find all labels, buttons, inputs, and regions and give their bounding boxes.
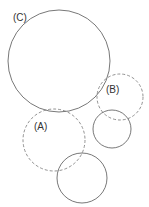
circle-b-solid <box>93 110 131 148</box>
circle-b-dashed <box>97 74 143 120</box>
circles-diagram: (C) (B) (A) <box>0 0 149 207</box>
circle-c <box>8 10 110 112</box>
circle-a-solid <box>57 153 107 203</box>
label-b: (B) <box>106 84 119 95</box>
label-c: (C) <box>13 12 27 23</box>
circle-a-dashed <box>23 109 85 171</box>
label-a: (A) <box>34 121 47 132</box>
